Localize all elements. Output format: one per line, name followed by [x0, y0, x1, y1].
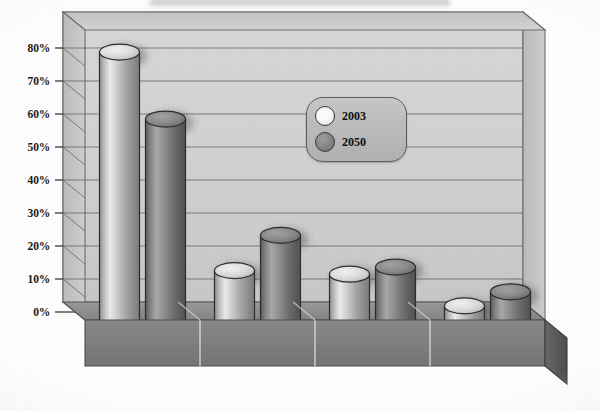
legend-swatch-2003-icon — [315, 106, 335, 126]
bar-top-cap — [100, 44, 140, 60]
bar-top-cap — [146, 111, 186, 127]
bar-body — [376, 267, 416, 328]
population-projection-chart — [0, 0, 600, 411]
legend-label-2050: 2050 — [342, 135, 366, 150]
bar-body — [146, 119, 186, 328]
bar-top-cap — [330, 266, 370, 282]
bar-body — [100, 52, 140, 328]
bar-top-cap — [491, 284, 531, 300]
legend-entry-2050: 2050 — [315, 132, 366, 152]
chart-screenshot: 80% 70% 60% 50% 40% 30% 20% 10% 0% White… — [0, 0, 600, 411]
bar-top-cap — [445, 298, 485, 314]
right-wall — [523, 12, 545, 320]
left-axis-wall — [63, 12, 85, 320]
legend-entry-2003: 2003 — [315, 106, 366, 126]
bar-top-cap — [261, 227, 301, 243]
floor-right-face — [545, 320, 567, 384]
top-ledge — [63, 12, 545, 30]
chart-legend: 2003 2050 — [306, 97, 407, 162]
bar-top-cap — [376, 259, 416, 275]
legend-swatch-2050-icon — [315, 132, 335, 152]
bar-top-cap — [215, 263, 255, 279]
bar-body — [261, 235, 301, 328]
legend-label-2003: 2003 — [342, 109, 366, 124]
bar-body — [215, 271, 255, 328]
